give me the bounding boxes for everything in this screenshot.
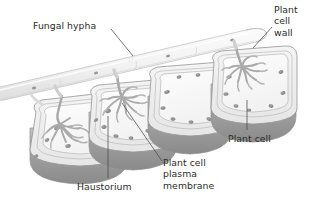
label-plasma-membrane-line2: plasma (163, 168, 197, 179)
label-plant-cell-wall-line3: wall (274, 27, 293, 38)
label-plant-cell: Plant cell (228, 133, 271, 144)
plant-cell-4 (211, 46, 297, 142)
label-plant-cell-wall-line2: cell (274, 15, 290, 26)
haustorium-diagram-figure: Fungal hypha Plantcellwall Plant cell Ha… (0, 0, 310, 201)
label-plant-cell-plasma-membrane: Plant cellplasmamembrane (163, 157, 214, 191)
label-plasma-membrane-line3: membrane (163, 180, 214, 191)
label-plant-cell-wall: Plantcellwall (274, 4, 298, 38)
label-haustorium: Haustorium (77, 181, 132, 192)
label-plasma-membrane-line1: Plant cell (163, 157, 206, 168)
label-plant-cell-wall-line1: Plant (274, 4, 298, 15)
label-fungal-hypha: Fungal hypha (33, 20, 96, 31)
leader-fungal-hypha (111, 29, 133, 56)
